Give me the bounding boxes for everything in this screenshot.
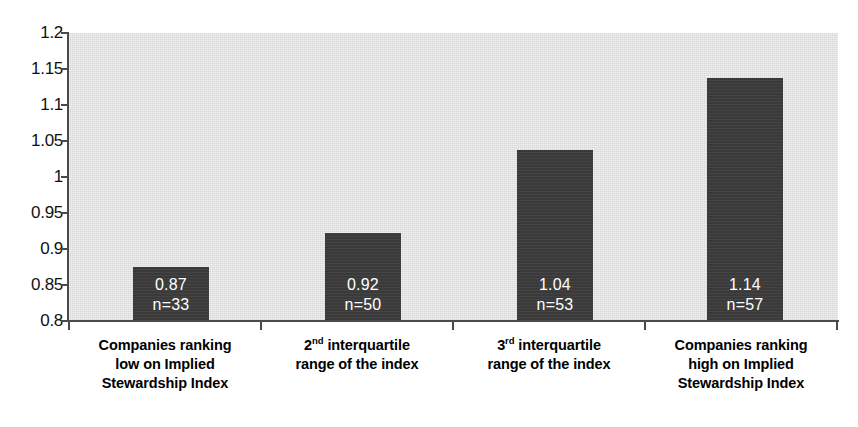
- category-label-4-line2: high on Implied: [645, 355, 837, 374]
- bar-1-count-label: n=33: [133, 295, 209, 315]
- plot-area: 0.87 n=33 0.92 n=50 1.04 n=53 1.14 n=57: [69, 33, 838, 321]
- bar-1-value-label: 0.87: [133, 275, 209, 295]
- category-label-3-line1: 3rd interquartile: [453, 336, 645, 355]
- x-tick-mark-2: [452, 322, 454, 330]
- y-tick-mark-1-2: [61, 32, 68, 34]
- y-tick-label-1-2: 1.2: [0, 24, 63, 41]
- bar-3-value-label: 1.04: [517, 275, 593, 295]
- y-tick-label-1-05: 1.05: [0, 132, 63, 149]
- bar-3-labels: 1.04 n=53: [517, 275, 593, 315]
- y-tick-label-1: 1: [0, 168, 63, 185]
- category-label-2-line2: range of the index: [261, 355, 453, 374]
- y-tick-mark-1-15: [61, 68, 68, 70]
- category-label-4-line3: Stewardship Index: [645, 374, 837, 393]
- category-label-3-ordinal: 3: [497, 337, 505, 353]
- y-tick-mark-1: [61, 176, 68, 178]
- y-tick-mark-1-05: [61, 140, 68, 142]
- bar-4-value-label: 1.14: [707, 275, 783, 295]
- bar-2-value-label: 0.92: [325, 275, 401, 295]
- category-label-2-text: interquartile: [327, 337, 410, 353]
- bar-4[interactable]: 1.14 n=57: [707, 78, 783, 321]
- category-label-3: 3rd interquartile range of the index: [453, 336, 645, 374]
- y-tick-label-1-15: 1.15: [0, 60, 63, 77]
- category-label-1-line1: Companies ranking: [69, 336, 261, 355]
- y-tick-label-0-9: 0.9: [0, 240, 63, 257]
- bar-2-labels: 0.92 n=50: [325, 275, 401, 315]
- category-label-2-line1: 2nd interquartile: [261, 336, 453, 355]
- x-tick-mark-1: [260, 322, 262, 330]
- y-tick-mark-1-1: [61, 104, 68, 106]
- category-label-2-ordinal: 2: [304, 337, 312, 353]
- category-label-3-line2: range of the index: [453, 355, 645, 374]
- y-axis-tick-labels: 1.2 1.15 1.1 1.05 1 0.95 0.9 0.85 0.8: [0, 0, 63, 340]
- y-tick-mark-0-9: [61, 248, 68, 250]
- x-tick-mark-0: [68, 322, 70, 330]
- category-label-2-ordinal-suffix: nd: [312, 335, 323, 346]
- y-tick-label-1-1: 1.1: [0, 96, 63, 113]
- bar-1[interactable]: 0.87 n=33: [133, 267, 209, 321]
- category-label-1: Companies ranking low on Implied Steward…: [69, 336, 261, 393]
- bar-4-labels: 1.14 n=57: [707, 275, 783, 315]
- bar-chart: 1.2 1.15 1.1 1.05 1 0.95 0.9 0.85 0.8 0.…: [0, 0, 858, 427]
- y-tick-mark-0-95: [61, 212, 68, 214]
- category-label-4-line1: Companies ranking: [645, 336, 837, 355]
- category-label-1-line2: low on Implied: [69, 355, 261, 374]
- category-label-1-line3: Stewardship Index: [69, 374, 261, 393]
- category-label-3-ordinal-suffix: rd: [505, 335, 514, 346]
- bar-1-labels: 0.87 n=33: [133, 275, 209, 315]
- bar-3[interactable]: 1.04 n=53: [517, 150, 593, 321]
- y-tick-mark-0-8: [61, 320, 68, 322]
- bar-2[interactable]: 0.92 n=50: [325, 233, 401, 321]
- y-tick-label-0-8: 0.8: [0, 312, 63, 329]
- y-tick-label-0-95: 0.95: [0, 204, 63, 221]
- y-tick-mark-0-85: [61, 284, 68, 286]
- x-tick-mark-4: [836, 322, 838, 330]
- bar-2-count-label: n=50: [325, 295, 401, 315]
- category-label-2: 2nd interquartile range of the index: [261, 336, 453, 374]
- bar-3-count-label: n=53: [517, 295, 593, 315]
- category-label-3-text: interquartile: [518, 337, 601, 353]
- x-tick-mark-3: [644, 322, 646, 330]
- category-label-4: Companies ranking high on Implied Stewar…: [645, 336, 837, 393]
- y-tick-label-0-85: 0.85: [0, 276, 63, 293]
- bar-4-count-label: n=57: [707, 295, 783, 315]
